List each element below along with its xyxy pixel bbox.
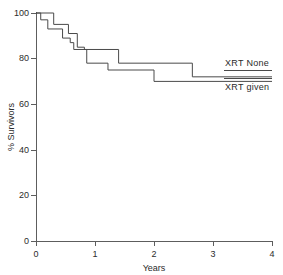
y-tick-label-20: 20 <box>19 190 29 200</box>
y-tick-label-100: 100 <box>14 8 29 18</box>
axes-group <box>36 12 272 241</box>
x-tick-label-3: 3 <box>210 249 215 259</box>
x-tick-label-2: 2 <box>151 249 156 259</box>
label-xrt-none: XRT None <box>225 58 269 68</box>
y-axis-title: % Survivors <box>6 102 16 151</box>
y-axis-ticks: 100 80 60 40 20 0 <box>14 8 36 246</box>
legend-group: XRT None XRT given <box>224 58 272 92</box>
y-tick-label-0: 0 <box>24 236 29 246</box>
x-axis-title: Years <box>143 263 166 273</box>
x-tick-label-1: 1 <box>92 249 97 259</box>
y-tick-label-40: 40 <box>19 145 29 155</box>
survival-plot: 100 80 60 40 20 0 0 1 2 3 4 Ye <box>0 0 283 275</box>
survival-chart-figure: 100 80 60 40 20 0 0 1 2 3 4 Ye <box>0 0 283 275</box>
y-tick-label-80: 80 <box>19 53 29 63</box>
x-tick-label-0: 0 <box>33 249 38 259</box>
label-xrt-given: XRT given <box>225 82 269 92</box>
x-tick-label-4: 4 <box>269 249 274 259</box>
y-tick-label-60: 60 <box>19 99 29 109</box>
x-axis-ticks: 0 1 2 3 4 <box>33 241 274 259</box>
survival-curve-xrt-given <box>36 13 272 81</box>
